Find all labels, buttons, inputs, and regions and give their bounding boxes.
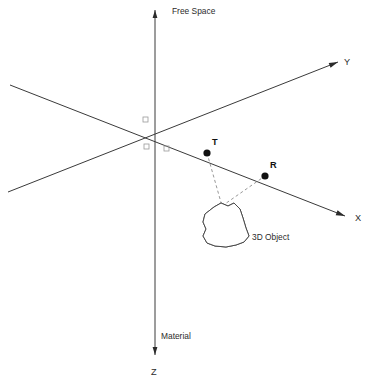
angle-marker-upper-left [143,117,148,122]
x-axis-line [10,85,345,216]
material-label: Material [161,331,191,341]
z-axis-arrowhead-up [153,10,158,18]
transmitter-dot [203,149,210,156]
x-axis: X [10,85,361,223]
scattered-ray [222,176,265,206]
diagram-canvas: Y X Z Free Space Material [0,0,368,381]
y-axis: Y [8,57,350,192]
3d-object-group: 3D Object [203,203,290,247]
node-group: T R [203,137,277,179]
x-axis-arrowhead [336,210,345,216]
angle-marker-lower-left [144,144,149,149]
axes-group: Y X Z [8,10,361,377]
receiver-dot [261,172,268,179]
ray-group [207,153,265,206]
incident-ray [207,153,222,206]
y-axis-arrowhead [329,62,338,68]
3d-object-outline-stroke [203,203,249,247]
free-space-label: Free Space [172,6,216,16]
x-axis-label: X [355,213,361,223]
z-axis-arrowhead-down [153,347,158,355]
y-axis-label: Y [344,57,350,67]
coordinate-diagram-svg: Y X Z Free Space Material [0,0,368,381]
transmitter-label: T [212,137,218,147]
z-axis-label: Z [151,367,157,377]
receiver-label: R [270,160,277,170]
3d-object-label: 3D Object [252,232,290,242]
y-axis-line [8,62,338,192]
z-axis: Z [151,10,157,377]
